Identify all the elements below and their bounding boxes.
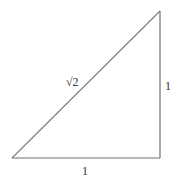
base-label: 1 [82, 165, 88, 177]
hypotenuse-edge [12, 11, 160, 158]
height-label: 1 [165, 80, 171, 92]
right-triangle-diagram [0, 0, 179, 181]
hypotenuse-label: √2 [66, 76, 79, 88]
